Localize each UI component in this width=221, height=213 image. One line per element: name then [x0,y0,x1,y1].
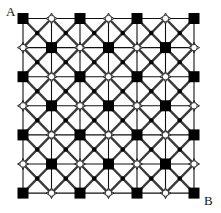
open-node-ring [105,15,111,21]
open-node-ring [20,44,26,50]
center-dot [178,60,182,64]
center-dot [64,118,68,122]
center-dot [149,176,153,180]
open-node-ring [134,161,140,167]
open-node-ring [77,161,83,167]
center-dot [178,31,182,35]
open-node-ring [105,132,111,138]
square-node [18,71,29,82]
square-node [132,13,143,24]
square-node [75,71,86,82]
center-dot [92,60,96,64]
square-node [18,129,29,140]
center-dot [64,147,68,151]
square-node [46,100,57,111]
center-dot [149,89,153,93]
open-node-ring [20,161,26,167]
center-dot [35,89,39,93]
open-node-ring [48,190,54,196]
center-dot [178,89,182,93]
center-dot [92,147,96,151]
center-dot [149,147,153,151]
label-b: B [204,194,213,207]
label-a: A [6,5,15,18]
open-node-ring [134,44,140,50]
square-node [132,71,143,82]
open-node-ring [162,74,168,80]
center-dot [149,60,153,64]
center-dot [64,31,68,35]
center-dot [121,60,125,64]
open-node-ring [48,74,54,80]
square-node [103,159,114,170]
square-node [18,13,29,24]
center-dot [35,118,39,122]
square-node [103,42,114,53]
open-node-ring [48,132,54,138]
square-node [103,100,114,111]
center-dot [64,60,68,64]
open-node-ring [77,44,83,50]
square-node [132,129,143,140]
open-node-ring [134,103,140,109]
center-dot [92,176,96,180]
open-node-ring [191,161,197,167]
open-node-ring [105,74,111,80]
open-node-ring [162,190,168,196]
center-dot [35,176,39,180]
center-dot [35,60,39,64]
lattice-diagram [0,0,221,213]
center-dot [149,118,153,122]
center-dot [64,89,68,93]
center-dot [92,31,96,35]
square-node [189,129,200,140]
open-node-ring [191,103,197,109]
center-dot [64,176,68,180]
center-dot [121,118,125,122]
square-node [189,13,200,24]
square-node [160,42,171,53]
open-node-ring [162,132,168,138]
center-dot [92,89,96,93]
center-dot [35,147,39,151]
open-node-ring [48,15,54,21]
square-node [75,129,86,140]
center-dot [178,147,182,151]
center-dot [121,147,125,151]
square-node [75,188,86,199]
open-node-ring [20,103,26,109]
square-node [75,13,86,24]
open-node-ring [77,103,83,109]
center-dot [35,31,39,35]
square-node [189,188,200,199]
square-node [160,159,171,170]
center-dot [149,31,153,35]
square-node [132,188,143,199]
open-node-ring [191,44,197,50]
square-node [46,159,57,170]
square-node [18,188,29,199]
square-node [46,42,57,53]
center-dot [121,89,125,93]
center-dot [121,31,125,35]
center-dot [178,118,182,122]
center-dot [178,176,182,180]
center-dot [92,118,96,122]
center-dot [121,176,125,180]
square-node [189,71,200,82]
open-node-ring [105,190,111,196]
open-node-ring [162,15,168,21]
square-node [160,100,171,111]
